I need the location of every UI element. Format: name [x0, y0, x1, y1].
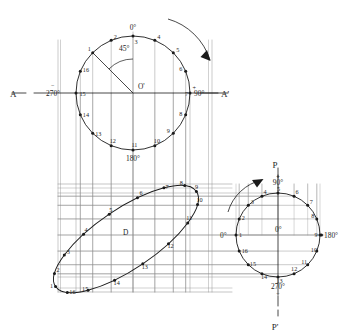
plan-point-label-3: 3: [135, 38, 138, 45]
side-point-9-outer: [320, 234, 323, 237]
ellipse-point-8: [183, 184, 186, 187]
side-point-3: [247, 204, 250, 207]
side-point-label-4: 4: [263, 188, 266, 195]
ellipse-point-1: [54, 285, 57, 288]
angle-45-label: 45°: [119, 44, 130, 53]
ellipse-point-label-7: 7: [165, 183, 168, 190]
side-point-label-8: 8: [311, 212, 314, 219]
plan-point-label-2: 2: [114, 33, 117, 40]
side-point-label-12: 12: [291, 265, 297, 272]
angle-45-arc: [109, 59, 133, 69]
side-point-2: [238, 217, 241, 220]
plan-point-label-15: 15: [80, 90, 86, 97]
plan-point-11: [132, 149, 135, 152]
plan-label-270deg: 270°: [46, 89, 60, 98]
plan-point-label-6: 6: [179, 65, 182, 72]
plan-point-7: [189, 92, 192, 95]
side-point-label-6: 6: [296, 188, 299, 195]
plan-point-label-11: 11: [132, 141, 138, 148]
technical-drawing: 123456789101112131415160°O'180°270°90°+−…: [0, 0, 355, 334]
angle-45-radius: [93, 53, 133, 93]
axis-label-A: A: [10, 89, 17, 99]
side-label-0deg: 0°: [220, 231, 227, 240]
plan-point-15: [75, 92, 78, 95]
axis-label-P-prime: P': [272, 322, 279, 332]
side-point-label-7: 7: [310, 198, 313, 205]
ellipse-point-label-12: 12: [167, 242, 173, 249]
plan-point-label-12: 12: [110, 137, 116, 144]
ellipse-point-3: [63, 254, 66, 257]
drawing-canvas: 123456789101112131415160°O'180°270°90°+−…: [0, 0, 355, 334]
plan-point-4: [153, 39, 156, 42]
ellipse-point-label-16: 16: [69, 288, 75, 295]
ellipse-point-4: [82, 233, 85, 236]
plan-point-label-13: 13: [95, 130, 101, 137]
side-point-6: [293, 195, 296, 198]
plan-plus-sign: +: [193, 84, 197, 91]
plan-label-180deg: 180°: [126, 154, 140, 163]
ellipse-point-label-2: 2: [56, 266, 59, 273]
side-point-label-2: 2: [242, 214, 245, 221]
ellipse-point-5: [108, 213, 111, 216]
side-point-label-11: 11: [301, 258, 307, 265]
plan-point-label-7: 7: [185, 90, 188, 97]
side-point-label-9: 9: [315, 231, 318, 238]
ellipse-point-9: [195, 190, 198, 193]
side-point-12: [293, 272, 296, 275]
ellipse-point-label-9: 9: [195, 183, 198, 190]
plan-point-label-4: 4: [157, 33, 160, 40]
side-point-label-14: 14: [261, 273, 267, 280]
ellipse-point-label-8: 8: [180, 179, 183, 186]
ellipse-center-label: D: [123, 228, 129, 237]
side-point-16: [238, 250, 241, 253]
side-point-5: [277, 192, 280, 195]
plan-point-label-9: 9: [167, 127, 170, 134]
plan-point-5: [172, 51, 175, 54]
side-plus-sign: +: [276, 173, 280, 180]
ellipse-point-label-5: 5: [109, 206, 112, 213]
plan-point-9: [172, 132, 175, 135]
plan-point-label-10: 10: [154, 137, 160, 144]
ellipse-point-label-15: 15: [82, 285, 88, 292]
plan-point-16: [79, 70, 82, 73]
ellipse-point-label-3: 3: [67, 248, 70, 255]
plan-point-13: [91, 132, 94, 135]
plan-point-1: [91, 51, 94, 54]
ellipse-point-10: [196, 203, 199, 206]
plan-point-label-1: 1: [88, 45, 91, 52]
projected-ellipse-outline: [39, 167, 213, 312]
axis-label-P: P: [272, 160, 277, 170]
ellipse-point-label-6: 6: [139, 189, 142, 196]
ellipse-point-label-4: 4: [85, 226, 88, 233]
plan-point-6: [184, 70, 187, 73]
plan-point-8: [184, 113, 187, 116]
plan-label-0deg: 0°: [130, 23, 137, 32]
plan-point-label-8: 8: [179, 110, 182, 117]
ellipse-point-label-1: 1: [50, 282, 53, 289]
plan-point-14: [79, 113, 82, 116]
ellipse-point-label-13: 13: [142, 263, 148, 270]
plan-point-label-5: 5: [176, 46, 179, 53]
side-center-label: 0°: [275, 225, 282, 234]
ellipse-point-6: [136, 196, 139, 199]
side-minus-sign: −: [276, 290, 280, 297]
side-point-label-1: 1: [239, 231, 242, 238]
ellipse-point-11: [186, 221, 189, 224]
ellipse-point-label-11: 11: [186, 214, 192, 221]
side-point-1: [235, 234, 238, 237]
axis-label-A-prime: A': [221, 89, 229, 99]
plan-point-10: [153, 144, 156, 147]
plan-point-label-14: 14: [83, 111, 89, 118]
side-point-4: [260, 195, 263, 198]
plan-point-12: [110, 144, 113, 147]
rotation-arrow-head-top: [201, 50, 211, 61]
side-point-label-3: 3: [251, 198, 254, 205]
plan-center-label: O': [138, 82, 145, 91]
side-point-label-16: 16: [242, 247, 248, 254]
plan-point-2: [110, 39, 113, 42]
ellipse-point-label-10: 10: [197, 196, 203, 203]
plan-minus-sign: −: [51, 82, 55, 89]
side-point-label-10: 10: [311, 246, 317, 253]
side-label-180deg: 180°: [324, 231, 338, 240]
ellipse-point-label-14: 14: [114, 279, 120, 286]
